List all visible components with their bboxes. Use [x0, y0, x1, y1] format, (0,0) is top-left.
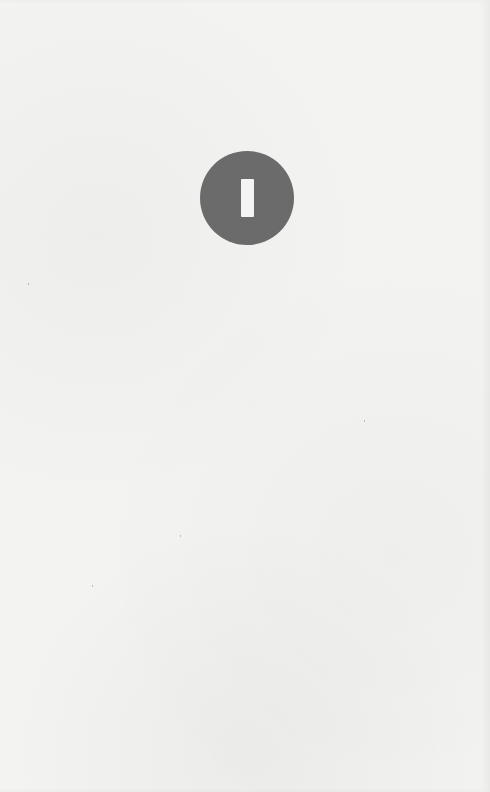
- paper-speck: [92, 585, 93, 587]
- paper-speck: [180, 535, 181, 537]
- vertical-bar-icon: [241, 179, 254, 217]
- circle-badge: I: [200, 151, 294, 245]
- paper-speck: [28, 283, 29, 285]
- blank-paper-page: I: [0, 0, 490, 792]
- paper-speck: [364, 420, 365, 422]
